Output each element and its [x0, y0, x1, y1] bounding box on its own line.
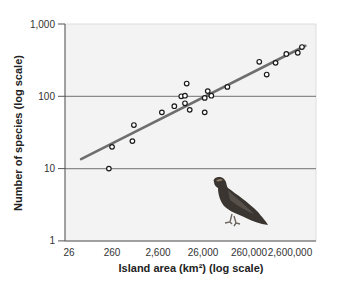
data-point	[264, 72, 269, 77]
data-point	[284, 52, 289, 57]
data-point	[209, 93, 214, 98]
data-point	[202, 110, 207, 115]
data-point	[187, 108, 192, 113]
data-point	[110, 145, 115, 150]
data-point	[273, 61, 278, 66]
data-point	[295, 50, 300, 55]
y-tick-label: 1,000	[30, 19, 55, 30]
data-point	[160, 110, 165, 115]
data-point	[205, 89, 210, 94]
plot-area	[65, 24, 316, 241]
data-point	[225, 85, 230, 90]
data-point	[132, 123, 137, 128]
y-axis-title: Number of species (log scale)	[12, 55, 24, 211]
species-area-chart: 1101001,000 262602,60026,000260,0002,600…	[0, 0, 337, 287]
data-point	[107, 166, 112, 171]
x-tick-label: 26,000	[188, 247, 219, 258]
x-tick-label: 2,600	[145, 247, 170, 258]
y-tick-label: 1	[49, 235, 55, 246]
x-axis-title: Island area (km²) (log scale)	[119, 262, 264, 274]
y-tick-label: 100	[38, 91, 55, 102]
data-point	[184, 81, 189, 86]
y-tick-label: 10	[44, 163, 56, 174]
data-point	[130, 139, 135, 144]
data-point	[172, 104, 177, 109]
x-tick-label: 26	[63, 247, 75, 258]
data-point	[300, 45, 305, 50]
data-point	[183, 101, 188, 106]
x-tick-label: 260,000	[231, 247, 268, 258]
data-point	[257, 60, 262, 65]
y-tick-labels: 1101001,000	[30, 19, 65, 247]
x-tick-label: 2,600,000	[268, 247, 313, 258]
data-point	[183, 93, 188, 98]
data-point	[202, 96, 207, 101]
x-tick-labels: 262602,60026,000260,0002,600,000	[63, 247, 312, 258]
x-tick-label: 260	[104, 247, 121, 258]
